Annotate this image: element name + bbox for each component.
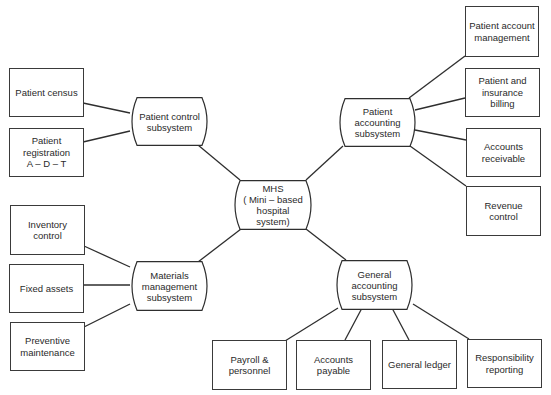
node-label: Patient control subsystem [129,97,210,146]
connector-responsibility-reporting [413,304,469,339]
node-label: MHS ( Mini – based hospital system) [232,180,314,230]
box-inventory-control: Inventory control [10,205,85,255]
box-accounts-payable: Accounts payable [296,340,371,390]
connector-general-ledger [392,308,409,340]
connector-revenue-control [410,146,466,186]
box-patient-insurance-billing: Patient and insurance billing [465,68,540,117]
node-label: General accounting subsystem [334,260,415,310]
connector-patient-control-mhs [198,145,240,180]
node-patient-control-subsystem: Patient control subsystem [129,97,210,146]
connector-materials-management-mhs [198,229,241,262]
connector-patient-registration [83,131,130,142]
node-mhs-center: MHS ( Mini – based hospital system) [232,180,314,230]
node-general-accounting-subsystem: General accounting subsystem [334,260,415,310]
node-label: Patient accounting subsystem [337,98,418,147]
connector-preventive-maintenance [84,304,130,327]
box-payroll-personnel: Payroll & personnel [212,340,287,390]
box-patient-account-management: Patient account management [465,6,539,57]
box-accounts-receivable: Accounts receivable [466,128,541,177]
box-responsibility-reporting: Responsibility reporting [467,339,542,388]
connector-accounts-receivable [415,130,466,140]
mhs-system-diagram: Patient control subsystem Patient accoun… [0,0,551,395]
box-preventive-maintenance: Preventive maintenance [10,322,85,371]
connector-patient-census [83,103,130,113]
connector-patient-account-management [409,56,465,98]
connector-general-accounting-mhs [306,229,346,260]
node-patient-accounting-subsystem: Patient accounting subsystem [337,98,418,147]
node-label: Materials management subsystem [129,261,210,311]
box-patient-registration: Patient registration A – D – T [9,128,84,177]
box-patient-census: Patient census [9,68,84,117]
node-materials-management-subsystem: Materials management subsystem [129,261,210,311]
connector-patient-insurance-billing [415,98,465,110]
connector-patient-accounting-mhs [306,146,343,180]
box-general-ledger: General ledger [382,340,457,389]
connector-accounts-payable [345,308,362,340]
box-fixed-assets: Fixed assets [9,264,84,313]
box-revenue-control: Revenue control [466,186,541,236]
connector-payroll-personnel [285,308,338,341]
connector-inventory-control [84,246,130,267]
